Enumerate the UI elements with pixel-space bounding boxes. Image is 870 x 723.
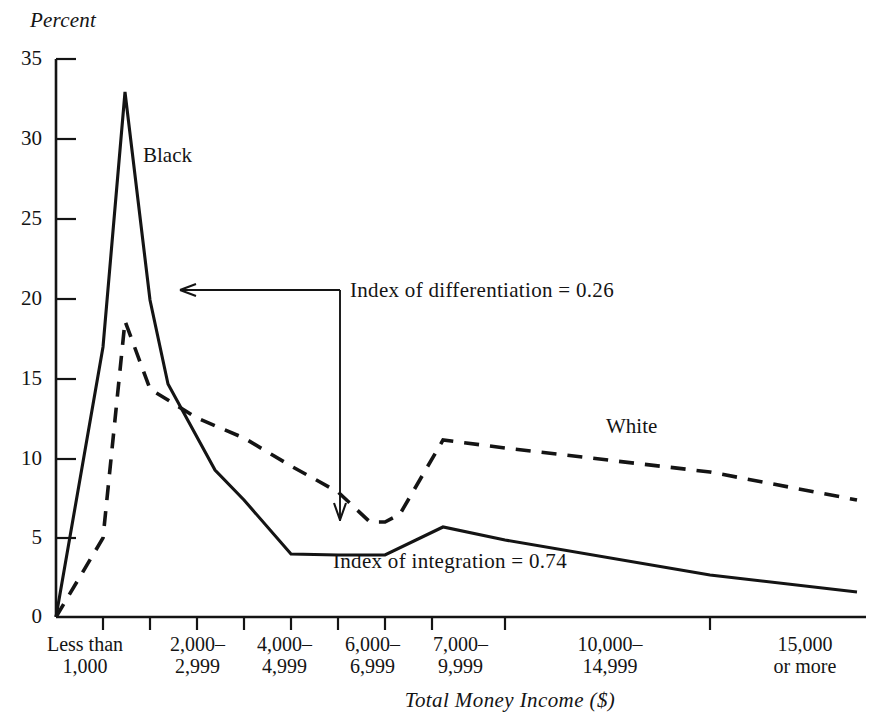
series-label-white: White (606, 414, 657, 439)
x-tick-line1: Less than (30, 633, 140, 655)
series-line-black (56, 92, 857, 617)
annotation-leader-differentiation (180, 284, 346, 521)
plot-area (0, 0, 870, 723)
x-tick-line2: 14,999 (550, 655, 670, 677)
x-tick-line2: 1,000 (30, 655, 140, 677)
x-tick-line1: 10,000– (550, 633, 670, 655)
chart-figure: Percent (0, 0, 870, 723)
y-tick-label-35: 35 (2, 48, 42, 69)
y-tick-marks (56, 59, 76, 538)
y-tick-label-15: 15 (2, 368, 42, 389)
x-tick-line2: or more (750, 655, 860, 677)
x-tick-label-10000-14999: 10,000– 14,999 (550, 633, 670, 678)
y-tick-label-25: 25 (2, 208, 42, 229)
x-tick-marks (103, 617, 710, 630)
x-tick-line1: 15,000 (750, 633, 860, 655)
annotation-index-of-integration: Index of integration = 0.74 (333, 549, 567, 574)
x-tick-label-7000-9999: 7,000– 9,999 (408, 633, 513, 678)
y-tick-label-30: 30 (2, 128, 42, 149)
y-tick-label-5: 5 (2, 527, 42, 548)
x-axis-title: Total Money Income ($) (405, 688, 615, 713)
x-tick-label-less-than-1000: Less than 1,000 (30, 633, 140, 678)
series-label-black: Black (143, 143, 192, 168)
x-tick-line2: 9,999 (408, 655, 513, 677)
y-tick-label-10: 10 (2, 448, 42, 469)
y-tick-label-20: 20 (2, 288, 42, 309)
x-tick-line1: 7,000– (408, 633, 513, 655)
x-axis-title-wrap: Total Money Income ($) (0, 688, 870, 713)
y-tick-label-0: 0 (2, 606, 42, 627)
annotation-index-of-differentiation: Index of differentiation = 0.26 (350, 278, 614, 303)
x-tick-label-15000-or-more: 15,000 or more (750, 633, 860, 678)
